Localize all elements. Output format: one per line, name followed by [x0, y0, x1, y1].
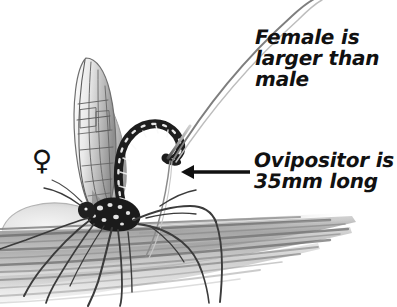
annotation-ovipositor-length: Ovipositor is 35mm long — [254, 150, 394, 192]
annotation-female-line-1: Female is — [255, 27, 379, 48]
annotation-female-line-3: male — [255, 69, 379, 90]
female-sex-symbol-icon: ♀ — [30, 144, 54, 178]
annotation-ovipositor-line-2: 35mm long — [254, 171, 394, 192]
annotation-female-size: Female is larger than male — [255, 27, 379, 90]
annotation-female-line-2: larger than — [255, 48, 379, 69]
annotation-ovipositor-line-1: Ovipositor is — [254, 150, 394, 171]
illustration-figure: Female is larger than male Ovipositor is… — [0, 0, 397, 307]
